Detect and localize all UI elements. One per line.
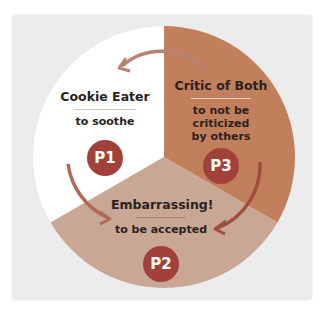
p3-subtitle-2: by others <box>167 130 275 143</box>
p3-subtitle-1: to not be criticized <box>167 104 275 130</box>
p1-title: Cookie Eater <box>55 89 155 104</box>
p2-subtitle: to be accepted <box>111 223 211 236</box>
badge-p3: P3 <box>203 148 239 184</box>
badge-p1: P1 <box>87 140 123 176</box>
p3-label: Critic of Both to not be criticized by o… <box>167 78 275 143</box>
p2-label: Embarrassing! to be accepted <box>111 197 211 236</box>
p1-rule <box>74 109 136 110</box>
p3-rule <box>191 98 251 99</box>
p1-subtitle: to soothe <box>55 115 155 128</box>
p2-rule <box>136 217 186 218</box>
badge-p2: P2 <box>143 246 179 282</box>
p1-label: Cookie Eater to soothe <box>55 89 155 128</box>
p2-title: Embarrassing! <box>111 197 211 212</box>
p3-title: Critic of Both <box>167 78 275 93</box>
